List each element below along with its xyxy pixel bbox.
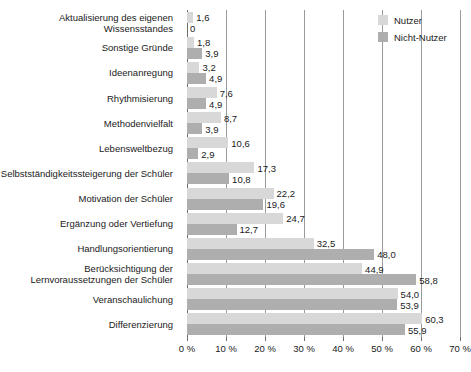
chart-row: Selbstständigkeitssteigerung der Schüler… bbox=[187, 161, 460, 186]
category-label: Motivation der Schüler bbox=[0, 193, 173, 204]
bar-nicht bbox=[187, 249, 374, 260]
bar-group-nicht: 3,9 bbox=[187, 48, 460, 59]
legend-swatch-icon bbox=[378, 15, 388, 25]
bar-nutzer bbox=[187, 62, 199, 73]
bar-value-label: 24,7 bbox=[283, 213, 305, 224]
bar-nutzer bbox=[187, 162, 254, 173]
chart-row: Motivation der Schüler22,219,6 bbox=[187, 186, 460, 211]
bar-value-label: 60,3 bbox=[422, 313, 444, 324]
bar-group-nutzer: 7,6 bbox=[187, 87, 460, 98]
chart-row: Rhythmisierung7,64,9 bbox=[187, 85, 460, 110]
bar-value-label: 3,9 bbox=[202, 48, 218, 59]
chart-row: Lebensweltbezug10,62,9 bbox=[187, 136, 460, 161]
bar-nicht bbox=[187, 324, 405, 335]
bar-nicht bbox=[187, 123, 202, 134]
category-label: Berücksichtigung der Lernvoraussetzungen… bbox=[0, 263, 173, 285]
bar-group-nicht: 53,9 bbox=[187, 299, 460, 310]
bar-value-label: 32,5 bbox=[314, 238, 336, 249]
bar-value-label: 3,9 bbox=[202, 123, 218, 134]
chart-row: Methodenvielfalt8,73,9 bbox=[187, 111, 460, 136]
category-label: Sonstige Gründe bbox=[0, 42, 173, 53]
chart-row: Handlungsorientierung32,548,0 bbox=[187, 236, 460, 261]
x-tick-label: 50 % bbox=[371, 343, 393, 354]
bar-value-label: 3,2 bbox=[199, 62, 215, 73]
legend-item[interactable]: Nicht-Nutzer bbox=[378, 30, 447, 44]
category-label: Differenzierung bbox=[0, 319, 173, 330]
bar-group-nicht: 19,6 bbox=[187, 199, 460, 210]
bar-nutzer bbox=[187, 263, 362, 274]
x-tick-label: 30 % bbox=[293, 343, 315, 354]
category-label: Lebensweltbezug bbox=[0, 143, 173, 154]
bar-group-nicht: 48,0 bbox=[187, 249, 460, 260]
bar-group-nutzer: 17,3 bbox=[187, 162, 460, 173]
bar-value-label: 55,9 bbox=[405, 324, 427, 335]
bar-nicht bbox=[187, 173, 229, 184]
bar-nicht bbox=[187, 199, 263, 210]
chart-rows: Aktualisierung des eigenen Wissensstande… bbox=[187, 10, 460, 337]
chart-row: Berücksichtigung der Lernvoraussetzungen… bbox=[187, 262, 460, 287]
x-axis: 0 %10 %20 %30 %40 %50 %60 %70 % bbox=[187, 337, 460, 363]
x-tick-label: 20 % bbox=[254, 343, 276, 354]
plot-area: Aktualisierung des eigenen Wissensstande… bbox=[187, 10, 460, 337]
bar-value-label: 54,0 bbox=[398, 288, 420, 299]
category-label: Handlungsorientierung bbox=[0, 243, 173, 254]
x-tick bbox=[421, 337, 422, 341]
x-tick bbox=[265, 337, 266, 341]
chart-row: Ergänzung oder Vertiefung24,712,7 bbox=[187, 211, 460, 236]
chart-row: Differenzierung60,355,9 bbox=[187, 312, 460, 337]
bar-value-label: 10,8 bbox=[229, 173, 251, 184]
bar-nicht bbox=[187, 148, 198, 159]
bar-group-nutzer: 32,5 bbox=[187, 238, 460, 249]
chart-legend: NutzerNicht-Nutzer bbox=[378, 13, 447, 47]
bar-nutzer bbox=[187, 313, 422, 324]
x-tick-label: 0 % bbox=[179, 343, 195, 354]
category-label: Methodenvielfalt bbox=[0, 118, 173, 129]
bar-group-nutzer: 10,6 bbox=[187, 137, 460, 148]
bar-value-label: 58,8 bbox=[416, 274, 438, 285]
x-tick-label: 40 % bbox=[332, 343, 354, 354]
category-label: Rhythmisierung bbox=[0, 93, 173, 104]
x-tick bbox=[343, 337, 344, 341]
bar-group-nutzer: 8,7 bbox=[187, 112, 460, 123]
bar-group-nicht: 3,9 bbox=[187, 123, 460, 134]
bar-nutzer bbox=[187, 188, 274, 199]
bar-value-label: 10,6 bbox=[228, 137, 250, 148]
category-label: Aktualisierung des eigenen Wissensstande… bbox=[0, 12, 173, 34]
bar-group-nicht: 58,8 bbox=[187, 274, 460, 285]
bar-group-nutzer: 24,7 bbox=[187, 213, 460, 224]
x-tick-label: 70 % bbox=[449, 343, 471, 354]
category-label: Ergänzung oder Vertiefung bbox=[0, 218, 173, 229]
bar-group-nicht: 4,9 bbox=[187, 73, 460, 84]
bar-value-label: 1,6 bbox=[193, 12, 209, 23]
bar-group-nutzer: 22,2 bbox=[187, 188, 460, 199]
bar-nutzer bbox=[187, 87, 217, 98]
legend-item[interactable]: Nutzer bbox=[378, 13, 447, 27]
bar-value-label: 4,9 bbox=[206, 98, 222, 109]
bar-group-nicht: 12,7 bbox=[187, 224, 460, 235]
x-tick bbox=[382, 337, 383, 341]
x-tick bbox=[304, 337, 305, 341]
bar-group-nicht: 2,9 bbox=[187, 148, 460, 159]
bar-nicht bbox=[187, 274, 416, 285]
bar-group-nutzer: 60,3 bbox=[187, 313, 460, 324]
category-label: Veranschaulichung bbox=[0, 294, 173, 305]
bar-group-nutzer: 3,2 bbox=[187, 62, 460, 73]
bar-value-label: 44,9 bbox=[362, 263, 384, 274]
gridline-70 bbox=[460, 10, 461, 337]
bar-value-label: 22,2 bbox=[274, 188, 296, 199]
bar-value-label: 8,7 bbox=[221, 112, 237, 123]
legend-label: Nicht-Nutzer bbox=[394, 32, 447, 43]
chart-row: Veranschaulichung54,053,9 bbox=[187, 287, 460, 312]
bar-value-label: 17,3 bbox=[254, 162, 276, 173]
x-tick-label: 60 % bbox=[410, 343, 432, 354]
bar-nicht bbox=[187, 98, 206, 109]
bar-nicht bbox=[187, 224, 237, 235]
bar-nutzer bbox=[187, 213, 283, 224]
bar-value-label: 19,6 bbox=[263, 199, 285, 210]
bar-nicht bbox=[187, 299, 397, 310]
legend-swatch-icon bbox=[378, 32, 388, 42]
chart-row: Ideenanregung3,24,9 bbox=[187, 60, 460, 85]
legend-label: Nutzer bbox=[394, 15, 422, 26]
bar-value-label: 0 bbox=[187, 23, 195, 34]
